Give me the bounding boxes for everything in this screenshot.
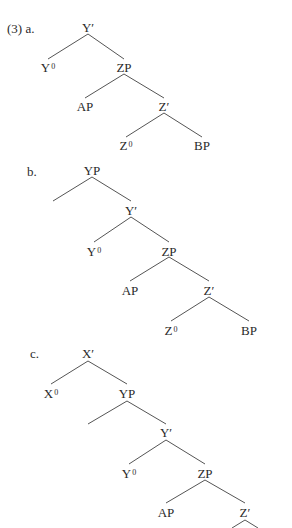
example-label-b: b. (27, 165, 37, 178)
tree-c-branch (129, 440, 166, 464)
tree-b-branch (209, 297, 249, 321)
node-superscript: 0 (132, 468, 136, 477)
node-label: Z (120, 138, 128, 153)
tree-node-a-AP: AP (77, 100, 94, 113)
node-label: ZP (116, 60, 131, 75)
tree-node-a-Y0: Y0 (41, 61, 55, 74)
tree-a-branch (164, 113, 202, 137)
node-superscript: 0 (54, 388, 58, 397)
node-label: Y (41, 60, 50, 75)
tree-c-branch (88, 401, 127, 424)
node-label: X (44, 386, 53, 401)
node-superscript: 0 (128, 140, 132, 149)
tree-b-branch (94, 217, 131, 242)
node-label: Y′ (160, 425, 172, 440)
tree-c-branch (245, 520, 258, 528)
tree-c-branch (166, 440, 205, 464)
tree-node-c-Y0: Y0 (122, 467, 136, 480)
tree-node-b-Zbar: Z′ (204, 284, 215, 297)
node-label: Y′ (82, 20, 94, 35)
tree-node-b-Ybar: Y′ (125, 204, 137, 217)
tree-b-branch (53, 177, 92, 201)
tree-node-a-BP: BP (194, 139, 210, 152)
node-label: Z (165, 323, 173, 338)
node-label: YP (84, 163, 101, 178)
tree-a-branch (85, 74, 124, 98)
syntax-tree-figure: (3) a. b. c. Y′Y0ZPAPZ′Z0BP YPY′Y0ZPAPZ′… (0, 0, 292, 528)
tree-node-b-BP: BP (241, 324, 257, 337)
tree-node-c-ZP: ZP (197, 467, 212, 480)
node-label: Y′ (125, 203, 137, 218)
tree-node-b-Z0: Z0 (165, 324, 178, 337)
node-label: X′ (82, 346, 94, 361)
node-superscript: 0 (173, 325, 177, 334)
tree-c-branch (88, 361, 127, 384)
tree-node-c-YP: YP (119, 387, 136, 400)
tree-node-c-Ybar: Y′ (160, 426, 172, 439)
node-label: ZP (161, 244, 176, 259)
tree-b-branch (130, 257, 169, 281)
tree-branches (0, 0, 292, 528)
tree-c-branch (127, 401, 166, 424)
node-label: Y (122, 466, 131, 481)
node-label: AP (122, 283, 139, 298)
node-label: Z′ (204, 283, 215, 298)
tree-node-c-X0: X0 (44, 387, 58, 400)
node-label: AP (158, 505, 175, 520)
tree-b-branch (171, 297, 209, 321)
tree-a-branch (126, 113, 164, 137)
node-label: BP (241, 323, 257, 338)
tree-a-branch (48, 34, 88, 59)
tree-b-branch (92, 177, 131, 201)
node-label: YP (119, 386, 136, 401)
tree-node-b-ZP: ZP (161, 245, 176, 258)
tree-node-c-Zbar: Z′ (240, 506, 251, 519)
tree-a-branch (88, 34, 124, 59)
node-label: Z′ (240, 505, 251, 520)
node-label: Y (87, 244, 96, 259)
node-label: ZP (197, 466, 212, 481)
tree-a-branch (124, 74, 164, 98)
tree-b-branch (169, 257, 209, 281)
tree-node-c-Xbar: X′ (82, 347, 94, 360)
node-superscript: 0 (97, 246, 101, 255)
tree-b-branch (131, 217, 169, 242)
example-label-a: (3) a. (7, 22, 34, 35)
node-label: Z′ (159, 99, 170, 114)
tree-node-b-AP: AP (122, 284, 139, 297)
tree-node-a-ZP: ZP (116, 61, 131, 74)
node-label: AP (77, 99, 94, 114)
tree-node-c-AP: AP (158, 506, 175, 519)
node-superscript: 0 (51, 62, 55, 71)
tree-c-branch (51, 361, 88, 384)
example-label-c: c. (30, 347, 39, 360)
node-label: BP (194, 138, 210, 153)
tree-c-branch (232, 520, 245, 528)
tree-c-branch (166, 480, 205, 503)
tree-node-a-Z0: Z0 (120, 139, 133, 152)
tree-node-b-YP: YP (84, 164, 101, 177)
tree-c-branch (205, 480, 245, 503)
tree-node-a-Zbar: Z′ (159, 100, 170, 113)
tree-node-a-Ybar: Y′ (82, 21, 94, 34)
tree-node-b-Y0: Y0 (87, 245, 101, 258)
